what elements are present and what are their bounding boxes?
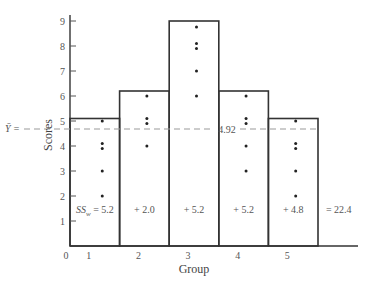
score-point (294, 195, 297, 198)
x-tick-label: 5 (285, 250, 290, 261)
y-tick-label: 7 (60, 66, 65, 77)
score-point (101, 120, 104, 123)
score-point (101, 147, 104, 150)
y-tick-label: 8 (60, 41, 65, 52)
score-point (245, 170, 248, 173)
score-point (294, 170, 297, 173)
score-point (245, 117, 248, 120)
y-tick-label: 3 (60, 166, 65, 177)
x-tick-label: 0 (64, 250, 69, 261)
score-point (145, 95, 148, 98)
score-point (195, 95, 198, 98)
score-point (195, 47, 198, 50)
bar-group-1 (70, 119, 120, 247)
bar-group-2 (120, 91, 170, 246)
y-tick-label: 9 (60, 16, 65, 27)
bar-group-4 (219, 91, 269, 246)
grand-mean-label: Ȳ = (5, 123, 20, 134)
score-point (195, 70, 198, 73)
anova-chart: 123456789012345 Ȳ = 4.92 SSw = 5.2+ 2.0+… (0, 0, 376, 289)
score-point (245, 95, 248, 98)
score-point (195, 26, 198, 29)
score-point (101, 170, 104, 173)
bar-group-5 (268, 119, 318, 247)
score-point (145, 117, 148, 120)
y-tick-label: 6 (60, 91, 65, 102)
score-point (145, 122, 148, 125)
score-point (145, 145, 148, 148)
ss-annotation: + 2.0 (134, 204, 155, 215)
score-point (245, 122, 248, 125)
ss-annotation: + 4.8 (283, 204, 304, 215)
ss-annotation: = 22.4 (326, 204, 352, 215)
ss-annotation: + 5.2 (233, 204, 254, 215)
x-tick-label: 3 (186, 250, 191, 261)
x-tick-label: 4 (235, 250, 240, 261)
score-point (245, 145, 248, 148)
y-tick-label: 2 (60, 191, 65, 202)
x-axis-title: Group (179, 262, 210, 276)
x-tick-label: 2 (136, 250, 141, 261)
ss-within-label: SSw = 5.2 (76, 204, 114, 218)
axes: 123456789012345 (60, 15, 358, 261)
score-point (101, 142, 104, 145)
score-point (101, 195, 104, 198)
score-point (195, 42, 198, 45)
y-tick-label: 1 (60, 216, 65, 227)
ss-annotation: + 5.2 (184, 204, 205, 215)
score-point (294, 147, 297, 150)
y-tick-label: 4 (60, 141, 65, 152)
grand-mean-value: 4.92 (218, 124, 236, 135)
x-tick-label: 1 (86, 250, 91, 261)
ss-annotations: SSw = 5.2+ 2.0+ 5.2+ 5.2+ 4.8= 22.4 (76, 204, 352, 218)
y-tick-label: 5 (60, 116, 65, 127)
score-point (294, 120, 297, 123)
y-axis-title: Scores (41, 119, 55, 151)
score-point (294, 142, 297, 145)
